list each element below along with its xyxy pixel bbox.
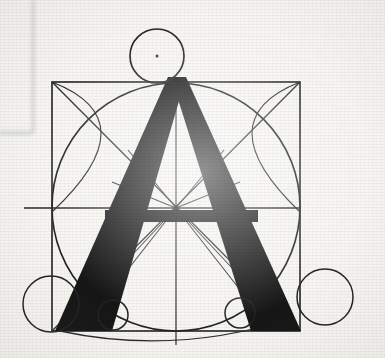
letter-a-crossbar [105,210,258,222]
letter-a-right-stem [171,77,301,331]
scanned-page: Geometric construction diagram of the ca… [0,0,385,358]
center-point [174,206,179,211]
arc-top-right-corner [252,82,300,212]
apex-circle-center-dot [156,55,159,58]
arc-top-left-corner [52,82,101,212]
letter-construction-figure [0,0,385,358]
margin-marks [0,0,33,134]
bottom-right-large-circle [297,269,353,325]
